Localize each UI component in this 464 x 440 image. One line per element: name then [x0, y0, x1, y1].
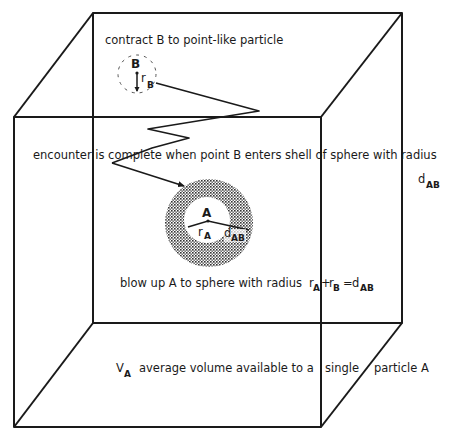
- volume-label-group: V A average volume available to a single…: [116, 361, 429, 379]
- particle-b: B r B: [118, 55, 156, 93]
- eq-d-sub: AB: [360, 283, 374, 293]
- diffusion-path-arrow: [112, 163, 184, 186]
- encounter-dab-d: d: [418, 172, 425, 186]
- radius-a-sub: A: [204, 231, 211, 241]
- particle-b-label: B: [131, 57, 140, 71]
- encounter-label: encounter is complete when point B enter…: [33, 148, 437, 162]
- inner-dab-sub: AB: [231, 233, 245, 243]
- encounter-dab-sub: AB: [426, 180, 440, 190]
- blowup-label-group: blow up A to sphere with radius r A + r …: [120, 276, 374, 293]
- encounter-cube-diagram: B r B A r A d AB contract B to point-lik…: [0, 0, 464, 440]
- particle-a-label: A: [202, 206, 212, 220]
- eq-d: d: [352, 276, 359, 290]
- sphere-a: A r A d AB: [165, 179, 253, 267]
- radius-b-sub: B: [147, 80, 154, 90]
- volume-text-single: single: [325, 361, 359, 375]
- contract-label: contract B to point-like particle: [105, 33, 283, 47]
- encounter-label-group: encounter is complete when point B enter…: [33, 148, 440, 190]
- eq-ra-sub: A: [313, 283, 320, 293]
- volume-v: V: [116, 361, 124, 375]
- volume-text-particle: particle A: [374, 361, 429, 375]
- eq-rb-sub: B: [333, 283, 340, 293]
- volume-sub: A: [124, 369, 131, 379]
- radius-b-r: r: [141, 71, 146, 85]
- blowup-label: blow up A to sphere with radius: [120, 276, 302, 290]
- radius-a-r: r: [198, 225, 203, 239]
- cube-front-face: [14, 117, 321, 427]
- volume-text: average volume available to a: [139, 361, 314, 375]
